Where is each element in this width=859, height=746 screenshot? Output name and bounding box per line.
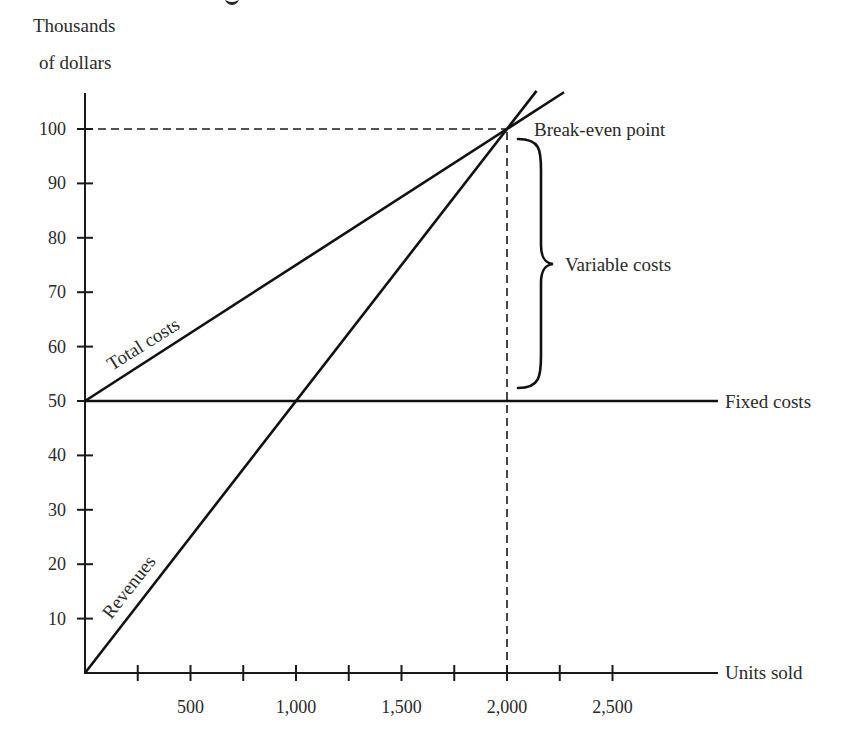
y-tick-label: 10 xyxy=(48,609,66,629)
x-tick-label: 1,000 xyxy=(276,697,317,717)
x-tick-label: 2,500 xyxy=(592,697,633,717)
y-tick-label: 70 xyxy=(48,282,66,302)
variable-costs-brace xyxy=(518,139,553,388)
fixed-costs-label: Fixed costs xyxy=(725,391,811,412)
y-tick-label: 30 xyxy=(48,500,66,520)
y-axis-title-line1: Thousands xyxy=(33,15,115,36)
break-even-label: Break-even point xyxy=(534,119,666,140)
y-axis-title-line2: of dollars xyxy=(39,52,111,73)
total-costs-line xyxy=(85,92,564,401)
break-even-chart: Thousands of dollars 1020304050607080901… xyxy=(0,0,859,746)
x-tick-label: 500 xyxy=(177,697,204,717)
y-tick-label: 60 xyxy=(48,337,66,357)
variable-costs-label: Variable costs xyxy=(565,254,671,275)
y-tick-label: 80 xyxy=(48,228,66,248)
y-tick-label: 50 xyxy=(48,391,66,411)
y-tick-label: 40 xyxy=(48,445,66,465)
y-tick-label: 20 xyxy=(48,554,66,574)
y-tick-label: 90 xyxy=(48,173,66,193)
x-tick-label: 2,000 xyxy=(487,697,528,717)
x-axis-title: Units sold xyxy=(725,662,803,683)
revenues-line xyxy=(85,91,537,673)
x-tick-label: 1,500 xyxy=(381,697,422,717)
y-tick-label: 100 xyxy=(39,119,66,139)
series-lines xyxy=(85,91,718,673)
